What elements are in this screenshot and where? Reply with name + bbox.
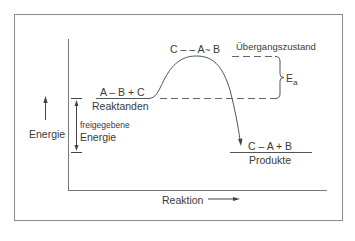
curve-arrow-icon <box>238 139 243 147</box>
y-axis-arrow-icon <box>43 96 47 120</box>
transition-formula-right: B <box>213 43 220 55</box>
x-axis-arrow-icon <box>208 197 240 201</box>
x-axis-label: Reaktion <box>162 194 204 206</box>
reactants-label: Reaktanden <box>92 100 149 112</box>
activation-energy-label: Ea <box>286 72 298 87</box>
activation-energy-brace <box>275 57 284 99</box>
reactants-formula: A – B + C <box>100 86 145 98</box>
released-energy-line2: Energie <box>80 131 116 143</box>
energy-diagram: Energie Reaktion A – B + C Reaktanden C … <box>0 0 355 241</box>
transition-formula-tilde: ~ <box>205 45 210 55</box>
released-energy-line1: freigegebene <box>80 120 130 130</box>
y-axis-label: Energie <box>29 128 65 140</box>
transition-state-label: Übergangszustand <box>236 41 316 52</box>
products-label: Produkte <box>249 154 291 166</box>
products-formula: C – A + B <box>248 140 292 152</box>
transition-formula-left: C – – A <box>170 43 204 55</box>
